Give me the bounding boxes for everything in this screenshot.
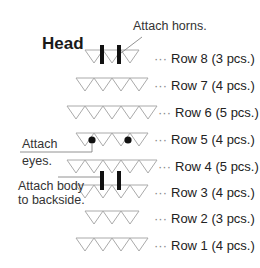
eye-right <box>124 136 131 143</box>
annotation-eyes-line2: eyes. <box>22 155 52 168</box>
horn-bar-right <box>117 45 121 64</box>
ellipsis: ··· <box>154 51 167 66</box>
ellipsis: ··· <box>154 211 167 226</box>
ellipsis: ··· <box>154 238 167 253</box>
diagram-title: Head <box>42 34 84 54</box>
row-6-triangles <box>67 106 157 119</box>
row-label-1: ···Row 1 (4 pcs.) <box>154 238 255 253</box>
row-7-triangles <box>76 78 148 91</box>
row-5-triangles <box>76 133 148 146</box>
annotation-body-line2: to backside. <box>18 194 85 207</box>
body-bar-right <box>117 171 121 190</box>
ellipsis: ··· <box>154 185 167 200</box>
body-bar-left <box>100 171 104 190</box>
ellipsis: ··· <box>158 105 171 120</box>
annotation-horns: Attach horns. <box>133 20 207 33</box>
ellipsis: ··· <box>154 132 167 147</box>
annotation-body-line1: Attach body <box>18 180 84 193</box>
row-3-triangles <box>76 185 148 198</box>
ellipsis: ··· <box>154 78 167 93</box>
horn-bar-left <box>100 45 104 64</box>
row-1-triangles <box>76 238 148 251</box>
annotation-eyes-line1: Attach <box>22 138 57 151</box>
row-label-2: ···Row 2 (3 pcs.) <box>154 211 255 226</box>
row-4-triangles <box>67 160 157 173</box>
row-2-triangles <box>85 211 139 224</box>
row-label-7: ···Row 7 (4 pcs.) <box>154 78 255 93</box>
row-8-triangles <box>85 50 139 63</box>
ellipsis: ··· <box>158 159 171 174</box>
row-label-5: ···Row 5 (4 pcs.) <box>154 132 255 147</box>
eye-left <box>88 136 95 143</box>
row-label-6: ···Row 6 (5 pcs.) <box>158 105 259 120</box>
row-label-8: ···Row 8 (3 pcs.) <box>154 51 255 66</box>
row-label-3: ···Row 3 (4 pcs.) <box>154 185 255 200</box>
row-label-4: ···Row 4 (5 pcs.) <box>158 159 259 174</box>
